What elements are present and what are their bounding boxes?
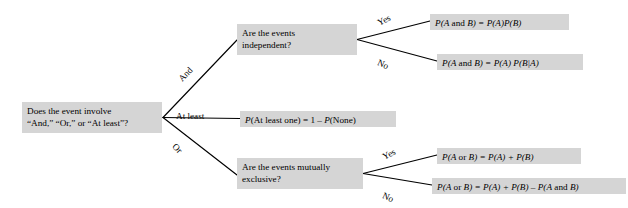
node-mutually-line2: exclusive? [242, 173, 358, 185]
formula-part-3: (A) + [494, 152, 517, 162]
formula-part-1: (A [443, 182, 452, 192]
node-root-question: Does the event involve “And,” “Or,” or “… [22, 102, 162, 133]
edge-root-to-independent [163, 40, 237, 118]
formula-part-2: B) = [469, 152, 488, 162]
edge-mutually-to-no [363, 174, 432, 186]
edge-mutually-to-yes [363, 155, 437, 174]
formula-part-1: (A [448, 152, 457, 162]
node-independent-line1: Are the events [242, 27, 352, 39]
formula-part-2: B) = [467, 18, 486, 28]
node-root-line2: “And,” “Or,” or “At least”? [27, 117, 157, 129]
formula-text-2: (None) [330, 115, 356, 125]
formula-operator-and: and [449, 18, 467, 28]
formula-part-4: (B) [510, 18, 522, 28]
formula-part-4: (B) [522, 152, 534, 162]
node-root-line1: Does the event involve [27, 105, 157, 117]
formula-part-4: (B) – [517, 182, 538, 192]
formula-part-1: (A [448, 58, 457, 68]
node-formula-or-not-exclusive: P(A or B) = P(A) + P(B) – P(A and B) [432, 178, 626, 194]
probability-decision-tree: Does the event involve “And,” “Or,” or “… [0, 0, 628, 208]
formula-operator-or: or [451, 182, 463, 192]
node-mutually-exclusive-question: Are the events mutually exclusive? [237, 158, 363, 189]
formula-part-3: (A) [492, 18, 504, 28]
formula-part-2: B) = [464, 182, 483, 192]
formula-operator-and: and [552, 182, 570, 192]
node-independent-line2: independent? [242, 39, 352, 51]
formula-part-3: (A) [499, 58, 513, 68]
node-at-least-one-formula: P(At least one) = 1 – P(None) [240, 111, 396, 127]
edge-label-at-least: At least [176, 111, 204, 121]
node-formula-or-exclusive: P(A or B) = P(A) + P(B) [437, 148, 581, 164]
formula-part-6: B) [570, 182, 579, 192]
node-independent-question: Are the events independent? [237, 24, 357, 55]
formula-part-3: (A) + [489, 182, 512, 192]
formula-part-5: (A [543, 182, 552, 192]
formula-operator-and: and [456, 58, 474, 68]
formula-operator-or: or [456, 152, 468, 162]
formula-part-4: (B|A) [519, 58, 539, 68]
edge-independent-to-no [357, 40, 437, 62]
node-mutually-line1: Are the events mutually [242, 161, 358, 173]
formula-part-2: B) = [474, 58, 493, 68]
formula-text-1: (At least one) = 1 – [251, 115, 325, 125]
node-formula-and-dependent: P(A and B) = P(A) P(B|A) [437, 54, 583, 70]
edge-independent-to-yes [357, 21, 430, 40]
formula-part-1: (A [441, 18, 450, 28]
node-formula-and-independent: P(A and B) = P(A)P(B) [430, 14, 569, 30]
